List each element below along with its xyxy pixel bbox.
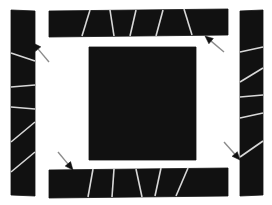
top-bar [49, 9, 228, 37]
center-square [89, 47, 196, 160]
right-bar [240, 10, 263, 196]
figure-canvas [0, 0, 272, 205]
figure-root [0, 0, 272, 205]
